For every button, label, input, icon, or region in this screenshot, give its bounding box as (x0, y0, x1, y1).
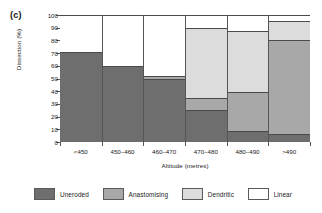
bar-segment-dendritic[interactable] (227, 31, 269, 93)
y-axis-tick-label: 80 (51, 36, 58, 45)
bar-separator (268, 15, 269, 142)
x-axis-tick-label: 450–460 (110, 148, 134, 156)
legend-swatch (103, 188, 124, 200)
x-axis-tick-mark (102, 142, 103, 146)
bar-segment-anastomising[interactable] (268, 40, 310, 134)
y-axis-tick-label: 70 (51, 49, 58, 58)
bar-segment-anastomising[interactable] (143, 76, 185, 79)
y-axis-tick-label: 60 (51, 61, 58, 70)
bar-segment-linear[interactable] (143, 15, 185, 76)
legend-swatch (182, 188, 203, 200)
y-axis-tick-label: 10 (51, 125, 58, 134)
stacked-bar[interactable] (185, 15, 227, 142)
y-axis-tick-label: 0 (55, 138, 58, 147)
bar-segment-linear[interactable] (102, 15, 144, 66)
stacked-bar[interactable] (60, 15, 102, 142)
bar-segment-linear[interactable] (227, 15, 269, 31)
y-axis-tick-label: 50 (51, 74, 58, 83)
legend-swatch (248, 188, 269, 200)
legend-label: Uneroded (60, 191, 89, 198)
y-axis-tick-label: 20 (51, 112, 58, 121)
stacked-bar[interactable] (102, 15, 144, 142)
legend-label: Linear (274, 191, 292, 198)
y-axis-tick-label: 30 (51, 99, 58, 108)
bar-segment-anastomising[interactable] (227, 92, 269, 131)
bar-separator (185, 15, 186, 142)
bar-segment-uneroded[interactable] (268, 134, 310, 142)
bar-segment-uneroded[interactable] (102, 66, 144, 142)
y-axis-tick-label: 100 (48, 11, 58, 20)
x-axis-tick-mark (185, 142, 186, 146)
bar-separator (143, 15, 144, 142)
bar-segment-dendritic[interactable] (268, 21, 310, 40)
x-axis-tick-label: 470–480 (194, 148, 218, 156)
y-axis-tick-label: 40 (51, 87, 58, 96)
legend-item[interactable]: Uneroded (34, 188, 89, 200)
y-axis-title: Dissection (%) (15, 8, 22, 92)
bar-segment-uneroded[interactable] (60, 52, 102, 142)
bar-segment-uneroded[interactable] (185, 110, 227, 142)
stacked-bar[interactable] (227, 15, 269, 142)
x-axis-tick-mark (268, 142, 269, 146)
legend-item[interactable]: Dendritic (182, 188, 234, 200)
x-axis-tick-label: <450 (74, 148, 88, 156)
chart-legend: UnerodedAnastomisingDendriticLinear (34, 186, 292, 202)
y-axis-tick-label: 90 (51, 23, 58, 32)
bar-segment-linear[interactable] (60, 15, 102, 52)
bar-segment-uneroded[interactable] (143, 79, 185, 142)
bar-segment-linear[interactable] (268, 15, 310, 21)
legend-label: Dendritic (208, 191, 234, 198)
x-axis-tick-label: 460–470 (152, 148, 176, 156)
legend-item[interactable]: Anastomising (103, 188, 169, 200)
x-axis-tick-label: 480–490 (235, 148, 259, 156)
bar-segment-dendritic[interactable] (185, 28, 227, 97)
bar-segment-uneroded[interactable] (227, 131, 269, 142)
plot-area: 0102030405060708090100 <450450–460460–47… (60, 15, 310, 142)
bar-segment-linear[interactable] (185, 15, 227, 28)
legend-swatch (34, 188, 55, 200)
bar-segment-anastomising[interactable] (185, 98, 227, 111)
x-axis-tick-mark (60, 142, 61, 146)
x-axis-title: Altitude (metres) (60, 162, 310, 169)
legend-label: Anastomising (129, 191, 169, 198)
x-axis-tick-mark (310, 142, 311, 146)
x-axis-tick-label: >490 (282, 148, 296, 156)
x-axis-tick-mark (143, 142, 144, 146)
legend-item[interactable]: Linear (248, 188, 292, 200)
bar-separator (227, 15, 228, 142)
stacked-bar[interactable] (143, 15, 185, 142)
bar-separator (102, 15, 103, 142)
stacked-bar[interactable] (268, 15, 310, 142)
x-axis-tick-mark (227, 142, 228, 146)
